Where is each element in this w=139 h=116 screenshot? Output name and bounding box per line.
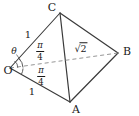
vertex-label-B: B xyxy=(123,46,131,57)
edge-length-OC: 1 xyxy=(25,30,31,40)
edge-CA xyxy=(60,13,70,102)
vertex-label-C: C xyxy=(48,2,56,13)
angle-arc-lower xyxy=(22,69,24,75)
vertex-label-O: O xyxy=(3,65,12,76)
radical-radicand: 2 xyxy=(80,42,88,54)
edge-length-OA: 1 xyxy=(29,87,35,97)
edge-length-OB-sqrt2: √2 xyxy=(74,44,87,54)
edge-OC xyxy=(10,13,60,68)
angle-lower-numerator: π xyxy=(37,66,45,75)
angle-label-lower-pi-over-4: π 4 xyxy=(37,66,45,86)
edge-OB-dashed xyxy=(10,53,118,68)
figure-canvas xyxy=(0,0,139,116)
angle-lower-denominator: 4 xyxy=(37,77,45,86)
geometry-figure: O C A B 1 1 √2 π 4 π 4 θ xyxy=(0,0,139,116)
angle-upper-denominator: 4 xyxy=(36,52,44,61)
vertex-label-A: A xyxy=(72,104,80,115)
angle-arc-upper xyxy=(19,59,23,68)
angle-upper-numerator: π xyxy=(36,41,44,50)
edge-CB xyxy=(60,13,118,53)
edge-AB xyxy=(70,53,118,102)
angle-label-theta: θ xyxy=(11,47,16,56)
angle-label-upper-pi-over-4: π 4 xyxy=(36,41,44,61)
